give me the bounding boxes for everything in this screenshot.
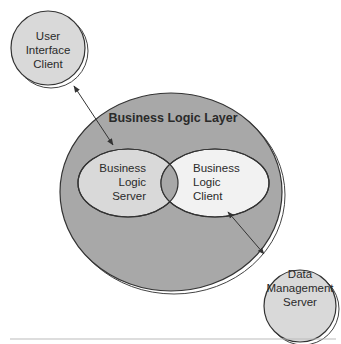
architecture-diagram: User Interface Client Business Logic Lay…	[0, 0, 341, 344]
node-label: User	[36, 30, 60, 42]
node-label: Logic	[193, 176, 221, 188]
node-label: Interface	[26, 44, 71, 56]
layer-title: Business Logic Layer	[108, 111, 237, 125]
node-label: Server	[283, 296, 317, 308]
node-label: Logic	[119, 176, 147, 188]
node-label: Client	[193, 190, 223, 202]
node-label: Client	[33, 58, 63, 70]
node-label: Management	[266, 282, 334, 294]
node-label: Server	[112, 190, 146, 202]
node-label: Business	[193, 162, 240, 174]
user-interface-client-node: User Interface Client	[11, 11, 88, 88]
node-label: Data	[288, 268, 313, 280]
node-label: Business	[99, 162, 146, 174]
data-management-server-node: Data Management Server	[264, 268, 339, 344]
